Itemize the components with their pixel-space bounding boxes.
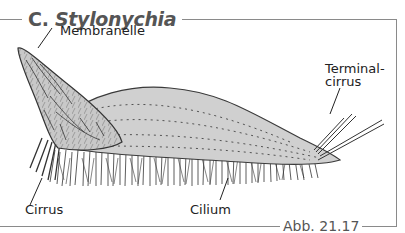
terminal-cirri — [314, 114, 384, 160]
leader-cilium — [220, 178, 228, 200]
figure-caption: Abb. 21.17 — [280, 216, 362, 233]
label-terminalcirrus-2: cirrus — [325, 75, 361, 89]
leader-cirrus — [30, 178, 42, 205]
label-cirrus: Cirrus — [25, 203, 63, 217]
label-membranelle: Membranelle — [60, 24, 145, 38]
label-cilium: Cilium — [190, 203, 231, 217]
leader-membranelle — [38, 28, 52, 48]
leader-terminalcirrus — [330, 88, 340, 114]
